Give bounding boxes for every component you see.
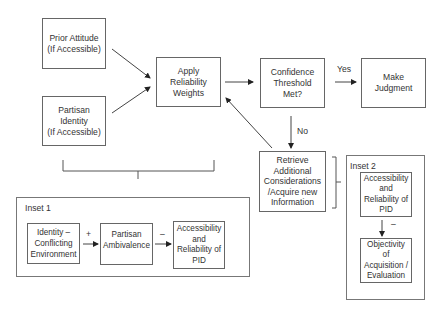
sign-plus: + <box>86 229 91 239</box>
node-apply-reliability-weights: Apply Reliability Weights <box>156 57 221 107</box>
inset-2-title: Inset 2 <box>350 161 376 171</box>
node-label: Partisan Ambivalence <box>103 229 150 251</box>
node-label: Accessibility and Reliability of PID <box>364 174 409 216</box>
node-confidence-threshold: Confidence Threshold Met? <box>260 58 325 108</box>
inset1-node-partisan-ambivalence: Partisan Ambivalence <box>100 223 153 265</box>
sign-minus: – <box>160 229 165 239</box>
inset1-node-identity-conflict: Identity – Conflicting Environment <box>27 223 80 264</box>
node-label: Prior Attitude (If Accessible) <box>47 33 101 55</box>
node-label: Objectivity of Acquisition / Evaluation <box>364 240 408 282</box>
inset1-node-accessibility-pid: Accessibility and Reliability of PID <box>173 221 225 269</box>
node-label: Apply Reliability Weights <box>170 66 207 99</box>
inset2-node-accessibility-pid: Accessibility and Reliability of PID <box>360 172 412 217</box>
edge-label-yes: Yes <box>337 64 351 74</box>
inset2-node-objectivity: Objectivity of Acquisition / Evaluation <box>360 238 412 283</box>
node-label: Retrieve Additional Considerations /Acqu… <box>264 155 321 208</box>
node-partisan-identity: Partisan Identity (If Accessible) <box>42 96 106 146</box>
node-retrieve-considerations: Retrieve Additional Considerations /Acqu… <box>259 151 326 212</box>
node-prior-attitude: Prior Attitude (If Accessible) <box>42 18 106 69</box>
node-make-judgment: Make Judgment <box>361 58 426 108</box>
node-label: Identity – Conflicting Environment <box>31 227 77 260</box>
node-label: Confidence Threshold Met? <box>271 67 314 100</box>
edge-label-no: No <box>297 126 308 136</box>
node-label: Partisan Identity (If Accessible) <box>47 105 101 138</box>
sign-minus: – <box>391 219 396 229</box>
node-label: Accessibility and Reliability of PID <box>177 224 222 266</box>
node-label: Make Judgment <box>375 72 413 94</box>
inset-1-title: Inset 1 <box>25 203 51 213</box>
